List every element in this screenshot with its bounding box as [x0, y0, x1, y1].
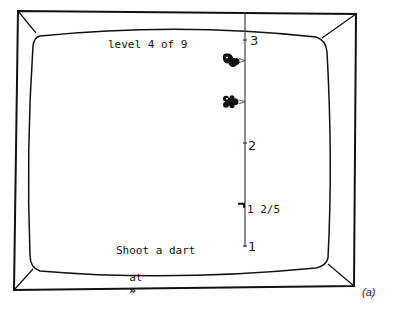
target-fraction-label: 1 2/5 [247, 203, 280, 216]
creature-part [223, 54, 229, 60]
level-indicator: level 4 of 9 [108, 38, 187, 51]
bevel-line-bottom-right [328, 264, 354, 286]
instruction-line-2: at » [116, 258, 143, 297]
bevel-line-top-right [322, 14, 356, 38]
bird-creature-icon[interactable] [223, 54, 245, 68]
creature-legs [239, 59, 245, 63]
game-screen [0, 0, 394, 310]
creature-legs [239, 100, 245, 104]
bevel-line-bottom-left [14, 269, 33, 290]
instruction-at-label: at [129, 271, 142, 284]
figure-caption: (a) [362, 286, 375, 298]
creature-eye [226, 98, 228, 100]
creature-part [230, 103, 235, 108]
monitor-screen-bezel [29, 29, 331, 276]
tick-label-2: 2 [248, 139, 256, 152]
tick-label-1: 1 [248, 240, 256, 253]
double-chevron-right-icon: » [129, 284, 136, 297]
bevel-line-top-left [18, 11, 36, 33]
dart-target-marker [238, 204, 244, 208]
creature-eye [226, 57, 228, 59]
number-line [223, 12, 247, 247]
tick-label-3: 3 [250, 34, 258, 47]
creature-part [230, 95, 235, 100]
bug-creature-icon[interactable] [223, 95, 245, 108]
instruction-line-1: Shoot a dart [116, 244, 195, 257]
creature-part [233, 58, 240, 65]
